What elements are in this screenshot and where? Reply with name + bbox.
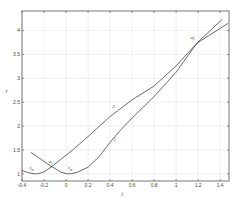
x-tick-label: 0.2	[85, 182, 92, 188]
curve-1	[31, 19, 223, 174]
annotation-tm: tm	[30, 165, 34, 172]
curve-label-1: 1	[113, 137, 116, 142]
x-tick-label: 0.4	[107, 182, 114, 188]
y-tick-label: 3	[17, 75, 20, 81]
y-tick-label: 1.5	[13, 147, 20, 153]
x-tick-label: 0	[65, 182, 68, 188]
y-tick-label: 2	[17, 123, 20, 129]
y-tick-label: 2.5	[13, 99, 20, 105]
y-tick-label: 3.5	[13, 51, 20, 57]
curves	[22, 19, 228, 174]
x-tick-label: 1.4	[217, 182, 224, 188]
ticks: -0.4-0.200.20.40.60.811.21.411.522.533.5…	[13, 11, 229, 188]
y-tick-label: 4	[17, 27, 20, 33]
curve-2	[22, 23, 228, 173]
grid	[22, 11, 229, 181]
annotation-tm: tm	[68, 165, 72, 172]
x-tick-label: 1	[175, 182, 178, 188]
y-axis-label: r	[6, 88, 9, 94]
x-tick-label: 0.6	[129, 182, 136, 188]
curve-label-2: 2	[112, 104, 115, 109]
x-tick-label: -0.2	[40, 182, 49, 188]
chart: -0.4-0.200.20.40.60.811.21.411.522.533.5…	[0, 0, 241, 201]
annotations: 12tmtma1a2	[30, 35, 195, 172]
x-axis-label: t	[121, 191, 123, 197]
annotation-a2: a2	[190, 35, 195, 42]
x-tick-label: 1.2	[195, 182, 202, 188]
x-tick-label: 0.8	[151, 182, 158, 188]
x-tick-label: -0.4	[18, 182, 27, 188]
y-tick-label: 1	[17, 171, 20, 177]
